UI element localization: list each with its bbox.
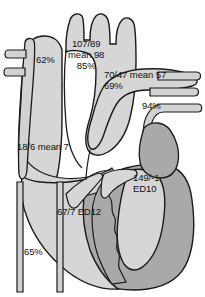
pulmonary-artery-pressure-value: 70/47 mean 57 [104,69,166,80]
ivc-saturation-value: 65% [24,246,43,257]
right-atrial-pressure-value: 18/6 mean 7 [17,141,69,152]
aortic-pressure-value: 107/89 [68,38,104,49]
aortic-saturation-value: 85% [68,60,104,71]
right-ventricular-pressure-value: 67/7 ED12 [57,206,101,217]
right-ventricular-outflow-line [86,150,90,180]
aortic-mean-pressure-value: mean 98 [68,49,104,60]
inferior-vena-cava-shape [17,182,23,292]
left-ventricular-ed-pressure-value: ED10 [133,183,159,194]
svc-saturation-label: 62% [36,54,55,65]
pulmonary-vein-saturation-label: 94% [142,100,161,111]
ivc-saturation-label: 65% [24,246,43,257]
svc-saturation-value: 62% [36,54,55,65]
left-ventricular-pressure-label: 149/-1 ED10 [133,172,159,194]
svc-tributary-branch-upper [5,50,26,58]
pulmonary-artery-saturation-value: 69% [104,80,166,91]
inferior-vena-cava-right-wall [57,182,63,292]
pulmonary-artery-pressure-label: 70/47 mean 57 69% [104,69,166,91]
cardiac-hemodynamics-diagram: 62% 107/89 mean 98 85% 70/47 mean 57 69%… [0,0,205,297]
pulmonary-vein-descending-shape [139,123,178,178]
left-ventricular-pressure-value: 149/-1 [133,172,159,183]
right-atrial-pressure-label: 18/6 mean 7 [17,141,69,152]
aortic-pressure-label: 107/89 mean 98 85% [68,38,104,71]
svc-tributary-branch-lower [4,68,25,76]
pulmonary-vein-saturation-value: 94% [142,100,161,111]
right-ventricular-pressure-label: 67/7 ED12 [57,206,101,217]
